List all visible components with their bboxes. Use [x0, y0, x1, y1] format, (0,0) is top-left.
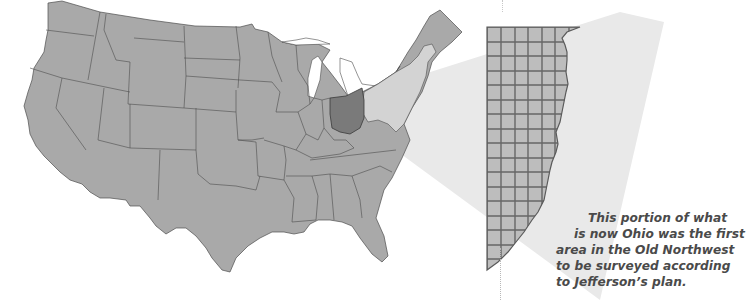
us-landmass [24, 1, 462, 272]
caption-line: to be surveyed according [556, 258, 750, 274]
caption-line: to Jefferson’s plan. [556, 274, 750, 290]
caption: This portion of what is now Ohio was the… [582, 210, 750, 290]
caption-line: is now Ohio was the first [574, 226, 750, 242]
caption-line: area in the Old Northwest [556, 242, 750, 258]
dotted-rule [500, 248, 501, 300]
dotted-rule-top [502, 0, 503, 12]
caption-line: This portion of what [588, 210, 750, 226]
